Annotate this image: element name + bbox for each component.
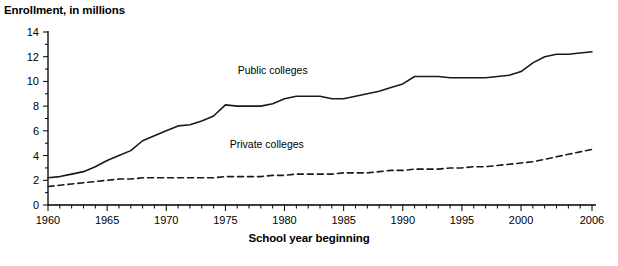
y-axis-tick-label: 6 (33, 125, 39, 137)
y-axis: 02468101214 (27, 26, 48, 211)
y-axis-tick-label: 4 (33, 150, 39, 162)
x-axis-tick-label: 1980 (272, 214, 296, 226)
x-axis-tick-label: 1975 (213, 214, 237, 226)
x-axis-tick-label: 2000 (509, 214, 533, 226)
x-axis-tick-label: 1970 (154, 214, 178, 226)
y-axis-tick-label: 2 (33, 174, 39, 186)
y-axis-tick-label: 10 (27, 75, 39, 87)
y-axis-tick-label: 8 (33, 100, 39, 112)
x-axis-tick-label: 1990 (391, 214, 415, 226)
series-line-private-colleges (48, 149, 592, 186)
enrollment-line-chart: Enrollment, in millions 02468101214 1960… (0, 0, 618, 266)
x-axis-tick-label: 1965 (95, 214, 119, 226)
y-axis-tick-label: 0 (33, 199, 39, 211)
y-axis-tick-label: 12 (27, 51, 39, 63)
series-line-public-colleges (48, 52, 592, 178)
x-axis-tick-label: 2006 (580, 214, 604, 226)
y-axis-tick-label: 14 (27, 26, 39, 38)
series-annotations: Public collegesPrivate colleges (230, 64, 308, 150)
x-axis-tick-label: 1985 (331, 214, 355, 226)
x-axis-tick-label: 1995 (450, 214, 474, 226)
series-label-public-colleges: Public colleges (238, 64, 308, 76)
data-series-group (48, 52, 592, 187)
x-axis-tick-label: 1960 (36, 214, 60, 226)
series-label-private-colleges: Private colleges (230, 138, 304, 150)
x-axis: 1960196519701975198019851990199520002006 (36, 205, 604, 226)
x-axis-title: School year beginning (0, 232, 618, 244)
chart-plot-area: 02468101214 1960196519701975198019851990… (0, 0, 618, 266)
